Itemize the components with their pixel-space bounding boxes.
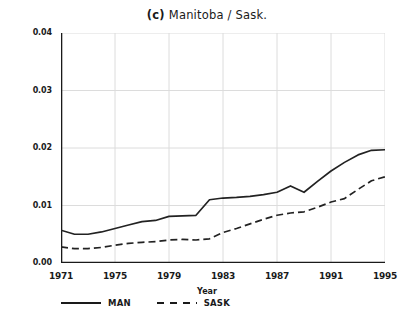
y-tick-label: 0.00 <box>0 258 52 267</box>
chart-title-text: Manitoba / Sask. <box>169 8 267 22</box>
legend-swatch-dashed-icon <box>157 299 197 307</box>
y-tick-label: 0.04 <box>0 28 52 37</box>
x-axis-title: Year <box>0 287 414 296</box>
plot-svg <box>61 33 385 263</box>
chart-figure: (c)Manitoba / Sask. FTE Enrolment Rate Y… <box>0 0 414 320</box>
legend-entry-sask[interactable]: SASK <box>157 298 230 308</box>
x-tick-label: 1995 <box>355 271 414 281</box>
legend-label: SASK <box>204 298 230 308</box>
legend-swatch-solid-icon <box>61 299 101 307</box>
plot-area <box>61 33 385 263</box>
y-tick-label: 0.03 <box>0 86 52 95</box>
y-tick-label: 0.01 <box>0 201 52 210</box>
x-tick-label: 1979 <box>139 271 199 281</box>
x-tick-label: 1991 <box>301 271 361 281</box>
legend-entry-man[interactable]: MAN <box>61 298 131 308</box>
x-tick-label: 1975 <box>85 271 145 281</box>
panel-letter: (c) <box>147 8 165 22</box>
x-tick-label: 1983 <box>193 271 253 281</box>
legend-label: MAN <box>108 298 131 308</box>
chart-legend: MANSASK <box>61 298 230 308</box>
x-tick-label: 1987 <box>247 271 307 281</box>
chart-title: (c)Manitoba / Sask. <box>0 8 414 22</box>
x-tick-label: 1971 <box>31 271 91 281</box>
y-tick-label: 0.02 <box>0 143 52 152</box>
